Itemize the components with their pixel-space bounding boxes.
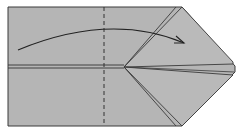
paper-body xyxy=(8,7,235,126)
fold-diagram-canvas xyxy=(0,0,243,136)
origami-diagram xyxy=(0,0,243,136)
